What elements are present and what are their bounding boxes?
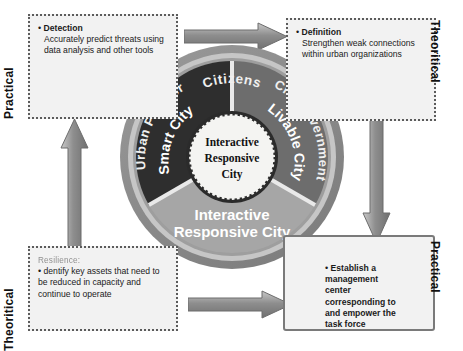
axis-label-practical-left: Practical xyxy=(2,67,16,119)
detection-heading: • Detection xyxy=(38,23,170,34)
arrow-down-right xyxy=(362,116,392,244)
hub-line-2: Responsive xyxy=(205,152,260,165)
definition-heading: • Definition xyxy=(296,27,428,38)
axis-label-practical-right: Practical xyxy=(428,241,442,293)
box-establish: • Establish a management center correspo… xyxy=(283,235,435,331)
hub-line-3: City xyxy=(221,168,242,181)
definition-text: Strengthen weak connections within urban… xyxy=(296,38,428,60)
establish-text: • Establish a management center correspo… xyxy=(325,263,405,330)
box-definition: • Definition Strengthen weak connections… xyxy=(286,18,436,121)
wedge-label-irc-line2: Responsive City xyxy=(174,223,291,240)
detection-text: Accurately predict threats using data an… xyxy=(38,34,170,56)
box-resilience: Resilience: • dentify key assets that ne… xyxy=(28,246,178,331)
arrow-right-bottom xyxy=(188,290,292,320)
hub-line-1: Interactive xyxy=(205,136,259,148)
axis-label-theoritical-right: Theoritical xyxy=(428,20,442,83)
box-detection: • Detection Accurately predict threats u… xyxy=(28,14,178,119)
resilience-text: • dentify key assets that need to be red… xyxy=(38,266,170,300)
wedge-label-irc-line1: Interactive xyxy=(194,206,269,223)
axis-label-theoritical-left: Theoritical xyxy=(2,288,16,351)
resilience-preline: Resilience: xyxy=(38,255,170,266)
arrow-up-left xyxy=(60,118,90,248)
